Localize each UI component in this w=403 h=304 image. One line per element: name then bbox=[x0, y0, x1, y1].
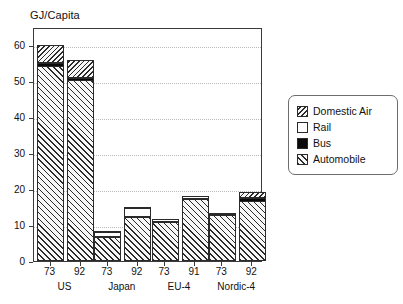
legend-label: Domestic Air bbox=[313, 106, 372, 117]
legend-item[interactable]: Rail bbox=[297, 119, 390, 135]
legend-swatch-automobile-icon bbox=[297, 154, 308, 165]
gridline bbox=[34, 47, 261, 48]
legend-swatch-rail-icon bbox=[297, 122, 308, 133]
bar-stack[interactable] bbox=[94, 231, 121, 261]
y-tick-label: 50 bbox=[0, 76, 25, 87]
bar-stack[interactable] bbox=[37, 45, 64, 261]
legend-item[interactable]: Domestic Air bbox=[297, 103, 390, 119]
chart-title: GJ/Capita bbox=[30, 9, 80, 21]
plot-inner bbox=[34, 29, 261, 261]
bar-segment-automobile bbox=[37, 66, 64, 261]
bar-segment-automobile bbox=[94, 237, 121, 261]
plot-area bbox=[33, 28, 262, 262]
legend-item[interactable]: Bus bbox=[297, 135, 390, 151]
bar-stack[interactable] bbox=[209, 213, 236, 261]
bar-segment-automobile bbox=[239, 201, 266, 261]
x-tick-label: 92 bbox=[231, 266, 271, 277]
bar-stack[interactable] bbox=[124, 207, 151, 261]
legend-label: Bus bbox=[313, 138, 331, 149]
legend-swatch-bus-icon bbox=[297, 138, 308, 149]
chart-figure: GJ/Capita 0102030405060 7392739273917392… bbox=[0, 0, 403, 304]
bar-stack[interactable] bbox=[182, 196, 209, 261]
bar-segment-domestic-air bbox=[67, 60, 94, 78]
y-tick-mark bbox=[29, 262, 33, 263]
bar-segment-automobile bbox=[152, 222, 179, 261]
bar-stack[interactable] bbox=[239, 192, 266, 261]
bar-segment-automobile bbox=[124, 217, 151, 261]
y-tick-label: 0 bbox=[0, 256, 25, 267]
y-tick-label: 20 bbox=[0, 184, 25, 195]
y-tick-label: 10 bbox=[0, 220, 25, 231]
y-tick-label: 30 bbox=[0, 148, 25, 159]
y-tick-label: 40 bbox=[0, 112, 25, 123]
bar-segment-automobile bbox=[67, 80, 94, 261]
bar-segment-automobile bbox=[182, 199, 209, 261]
x-group-label: Nordic-4 bbox=[193, 281, 279, 292]
y-tick-label: 60 bbox=[0, 40, 25, 51]
legend-label: Automobile bbox=[313, 154, 366, 165]
legend-label: Rail bbox=[313, 122, 331, 133]
bar-stack[interactable] bbox=[152, 219, 179, 261]
legend-item[interactable]: Automobile bbox=[297, 151, 390, 167]
legend-swatch-domestic-air-icon bbox=[297, 106, 308, 117]
bar-segment-automobile bbox=[209, 215, 236, 261]
bar-segment-domestic-air bbox=[37, 45, 64, 63]
chart-legend: Domestic AirRailBusAutomobile bbox=[288, 95, 398, 175]
bar-stack[interactable] bbox=[67, 60, 94, 261]
